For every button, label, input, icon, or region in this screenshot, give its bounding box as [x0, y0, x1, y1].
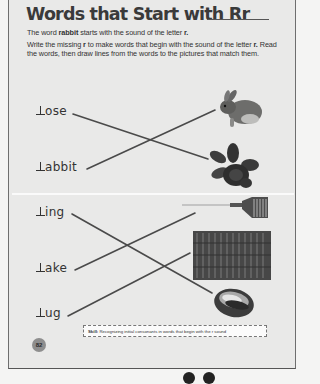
next-page-edge-right	[203, 372, 215, 384]
word-rabbit: abbit	[36, 160, 77, 174]
blank-r-rake[interactable]	[36, 263, 45, 272]
line-rake-to-rake	[75, 213, 195, 270]
blank-r-rug[interactable]	[36, 308, 45, 317]
line-rose-to-rose	[73, 114, 208, 159]
skill-note: Skill: Recognizing initial consonants in…	[83, 325, 267, 337]
page-number-badge: 82	[32, 338, 46, 352]
line-rug-to-rug	[68, 253, 190, 316]
blank-r-rabbit[interactable]	[36, 162, 45, 171]
rose-picture[interactable]	[206, 143, 266, 191]
word-rug: ug	[36, 306, 61, 320]
blank-r-rose[interactable]	[36, 106, 45, 115]
word-ring: ing	[36, 205, 64, 219]
line-rabbit-to-rabbit	[87, 110, 215, 169]
word-rake: ake	[36, 261, 67, 275]
blank-r-ring[interactable]	[36, 207, 45, 216]
rug-picture[interactable]	[193, 231, 271, 280]
rake-picture[interactable]	[182, 194, 272, 220]
line-ring-to-ring	[72, 214, 212, 293]
word-rose: ose	[36, 104, 67, 118]
next-page-edge-left	[183, 372, 195, 384]
rabbit-picture[interactable]	[212, 90, 268, 134]
ring-picture[interactable]	[212, 285, 256, 321]
